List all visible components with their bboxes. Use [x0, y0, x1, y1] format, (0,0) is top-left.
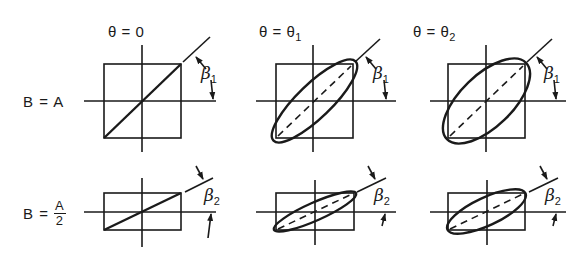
beta-subscript: 2	[384, 195, 390, 207]
panel-r2-theta1	[256, 166, 396, 245]
column-title-theta-0: θ = 0	[108, 24, 144, 39]
panel-r1-theta1	[256, 39, 396, 153]
row-label-b-equals-a-half: B = A2	[23, 199, 66, 227]
lissajous-phase-diagram: θ = 0 θ = θ1 θ = θ2 B = A B = A2 β1 β1 β…	[0, 0, 587, 260]
angle-label-beta1-col1: β1	[201, 65, 217, 82]
beta-subscript: 1	[383, 73, 389, 85]
row-label-prefix: B =	[23, 205, 54, 222]
beta-symbol: β	[544, 63, 554, 83]
fraction-denominator: 2	[54, 214, 66, 228]
column-title-theta-1: θ = θ1	[259, 24, 302, 39]
column-title-subscript: 1	[295, 31, 302, 43]
panel-r1-theta0	[84, 37, 216, 152]
angle-label-beta2-col2: β2	[374, 187, 390, 204]
fraction-numerator: A	[54, 199, 66, 214]
fraction: A2	[54, 199, 66, 227]
beta-symbol: β	[373, 63, 383, 83]
beta-symbol: β	[545, 185, 555, 205]
angle-label-beta1-col2: β1	[373, 65, 389, 82]
row-label-prefix: B =	[23, 93, 53, 110]
angle-label-beta1-col3: β1	[544, 65, 560, 82]
beta-symbol: β	[201, 63, 211, 83]
column-title-theta-2: θ = θ2	[413, 24, 456, 39]
beta-symbol: β	[204, 185, 214, 205]
beta-subscript: 1	[211, 73, 217, 85]
column-title-text: θ = θ	[413, 23, 449, 40]
beta-subscript: 1	[554, 73, 560, 85]
panel-r2-theta0	[84, 166, 216, 247]
beta-subscript: 2	[555, 195, 561, 207]
column-title-text: θ = 0	[108, 23, 144, 40]
angle-label-beta2-col1: β2	[204, 187, 220, 204]
beta-symbol: β	[374, 185, 384, 205]
row-label-b-equals-a: B = A	[23, 94, 64, 109]
angle-label-beta2-col3: β2	[545, 187, 561, 204]
row-label-value: A	[53, 93, 64, 110]
beta-subscript: 2	[214, 195, 220, 207]
panel-r2-theta2	[430, 166, 566, 245]
panel-r1-theta2	[429, 39, 566, 158]
column-title-text: θ = θ	[259, 23, 295, 40]
column-title-subscript: 2	[449, 31, 456, 43]
